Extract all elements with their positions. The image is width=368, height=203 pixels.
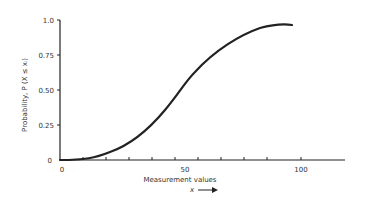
x-tick-100: 100	[294, 166, 307, 174]
y-tick-1: 1.0	[43, 17, 54, 25]
cdf-chart: 1.0 0.75 0.50 0.25 0 0 50 100 Measuremen…	[0, 0, 368, 203]
y-tick-075: 0.75	[38, 52, 54, 60]
cdf-curve	[60, 24, 292, 160]
arrow-right-icon	[198, 187, 218, 193]
y-tick-025: 0.25	[38, 122, 54, 130]
x-tick-0: 0	[60, 166, 64, 174]
x-axis-label: Measurement values	[143, 176, 216, 184]
x-tick-50: 50	[181, 166, 190, 174]
y-tick-050: 0.50	[38, 87, 54, 95]
y-tick-0: 0	[48, 157, 52, 165]
y-axis-label: Probability, P (X ≤ xᵢ)	[21, 58, 29, 132]
x-variable-label: x	[189, 186, 195, 194]
